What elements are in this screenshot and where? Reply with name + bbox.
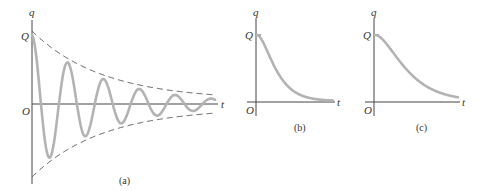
panel-b-q-label: q [253, 6, 259, 18]
panel-b-t-label: t [337, 96, 341, 108]
panel-c: q Q O t (c) [363, 6, 466, 134]
panel-a-t-label: t [221, 98, 225, 110]
panel-a-origin-label: O [22, 105, 30, 117]
panel-c-q-label: q [371, 6, 377, 18]
panel-c-origin-label: O [364, 104, 372, 116]
panel-b-Q-tick-label: Q [245, 29, 253, 41]
panel-b-critically-damped-curve [257, 35, 333, 101]
panel-c-overdamped-curve [375, 35, 458, 97]
panel-a-Q-tick-label: Q [21, 30, 29, 42]
panel-a: q Q O t (a) [21, 6, 225, 187]
panel-c-t-label: t [462, 96, 466, 108]
panel-c-caption: (c) [416, 122, 427, 134]
panel-a-caption: (a) [119, 175, 130, 187]
damped-oscillation-figure: q Q O t (a) q Q O t (b) q Q O t (c) [0, 0, 477, 191]
panel-c-Q-tick-label: Q [363, 29, 371, 41]
panel-b-caption: (b) [294, 122, 306, 134]
panel-b: q Q O t (b) [245, 6, 341, 134]
panel-a-upper-envelope [32, 31, 215, 95]
panel-b-origin-label: O [246, 104, 254, 116]
panel-a-q-label: q [29, 6, 35, 18]
